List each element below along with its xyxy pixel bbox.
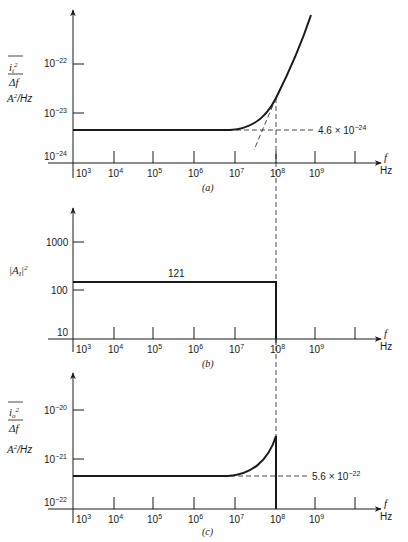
svg-text:109: 109 <box>309 343 324 355</box>
panel-c: 10−20 10−21 10−22 io2 Δf A2/Hz 103 104 1… <box>6 373 392 538</box>
panel-c-x-ticks <box>114 497 355 509</box>
panel-b-y-label: |AI|2 <box>9 264 28 278</box>
svg-text:104: 104 <box>108 513 123 525</box>
svg-text:Δf: Δf <box>8 76 20 88</box>
svg-text:106: 106 <box>188 167 203 179</box>
panel-b-x-unit: Hz <box>380 341 392 352</box>
panel-c-ytick-1e-21: 10−21 <box>44 453 67 465</box>
svg-text:107: 107 <box>229 343 244 355</box>
panel-b: 1000 100 10 |AI|2 103 104 105 106 107 10… <box>9 208 392 370</box>
panel-c-level-annotation: 5.6 × 10−22 <box>312 470 360 482</box>
panel-c-x-label: f <box>384 497 389 509</box>
svg-text:109: 109 <box>309 513 324 525</box>
panel-a-ytick-1e-24: 10−24 <box>44 150 67 162</box>
svg-text:107: 107 <box>229 513 244 525</box>
panel-b-level-label: 121 <box>168 268 185 279</box>
panel-b-ytick-1000: 1000 <box>46 237 69 248</box>
panel-b-ytick-100: 100 <box>51 285 68 296</box>
svg-text:104: 104 <box>108 167 123 179</box>
svg-text:106: 106 <box>188 513 203 525</box>
svg-text:105: 105 <box>147 343 162 355</box>
panel-a-caption: (a) <box>202 182 214 194</box>
panel-c-noise-curve <box>73 436 276 509</box>
svg-text:io2: io2 <box>9 406 20 420</box>
svg-text:103: 103 <box>76 513 91 525</box>
svg-text:105: 105 <box>147 513 162 525</box>
panel-a-asymptote <box>254 98 276 150</box>
panel-c-caption: (c) <box>202 526 214 538</box>
panel-b-x-ticks <box>114 327 355 345</box>
panel-b-x-label: f <box>384 327 389 339</box>
svg-text:A2/Hz: A2/Hz <box>6 443 32 455</box>
panel-a: 10−22 10−23 10−24 ii2 Δf A2/Hz 103 104 1… <box>6 10 392 194</box>
panel-c-x-unit: Hz <box>380 511 392 522</box>
svg-text:103: 103 <box>76 343 91 355</box>
panel-c-ytick-1e-20: 10−20 <box>44 404 67 416</box>
panel-c-ytick-1e-22: 10−22 <box>44 496 67 508</box>
panel-b-caption: (b) <box>202 358 214 370</box>
panel-c-y-label: io2 Δf A2/Hz <box>6 402 32 455</box>
svg-text:104: 104 <box>108 343 123 355</box>
svg-text:108: 108 <box>270 167 285 179</box>
panel-a-noise-curve <box>73 15 311 130</box>
panel-c-x-tick-labels: 103 104 105 106 107 108 109 <box>76 513 324 525</box>
svg-text:108: 108 <box>270 513 285 525</box>
panel-a-x-unit: Hz <box>380 165 392 176</box>
svg-text:ii2: ii2 <box>9 61 18 75</box>
panel-a-x-tick-labels: 103 104 105 106 107 108 109 <box>76 167 324 179</box>
panel-a-x-label: f <box>384 151 389 163</box>
panel-b-x-tick-labels: 103 104 105 106 107 108 109 <box>76 343 324 355</box>
svg-text:109: 109 <box>309 167 324 179</box>
svg-text:A2/Hz: A2/Hz <box>6 92 32 104</box>
panel-a-y-label: ii2 Δf A2/Hz <box>6 56 32 104</box>
svg-text:Δf: Δf <box>8 422 20 434</box>
svg-text:107: 107 <box>229 167 244 179</box>
panel-b-ytick-10: 10 <box>57 327 69 338</box>
panel-a-x-ticks <box>114 151 355 163</box>
figure-canvas: 10−22 10−23 10−24 ii2 Δf A2/Hz 103 104 1… <box>0 0 408 542</box>
panel-a-ytick-1e-23: 10−23 <box>44 107 67 119</box>
svg-text:105: 105 <box>147 167 162 179</box>
panel-a-ytick-1e-22: 10−22 <box>44 57 67 69</box>
panel-b-gain-curve <box>73 282 276 339</box>
panel-a-level-annotation: 4.6 × 10−24 <box>318 124 366 136</box>
svg-text:106: 106 <box>188 343 203 355</box>
svg-text:108: 108 <box>270 343 285 355</box>
svg-text:103: 103 <box>76 167 91 179</box>
